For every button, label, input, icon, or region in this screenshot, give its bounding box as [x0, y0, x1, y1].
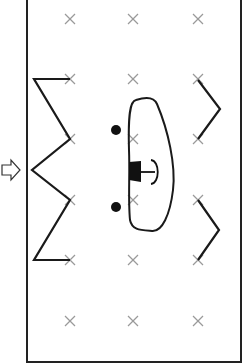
t-marker-icon: [129, 160, 158, 184]
grid-cross-icon: [128, 316, 138, 326]
chevron-lower: [198, 200, 219, 260]
maze-diagram: [0, 0, 251, 364]
grid-cross-icon: [193, 316, 203, 326]
grid-cross-icon: [128, 74, 138, 84]
grid-cross-icon: [65, 14, 75, 24]
grid-cross-icon: [193, 74, 203, 84]
dot-upper: [111, 125, 121, 135]
grid-cross-icon: [193, 14, 203, 24]
diagram-frame: [27, 0, 241, 362]
grid-cross-icon: [128, 14, 138, 24]
grid-cross-icon: [128, 255, 138, 265]
dot-lower: [111, 202, 121, 212]
grid-cross-icon: [65, 316, 75, 326]
zigzag-wall: [32, 79, 70, 260]
chevron-upper: [198, 80, 220, 139]
hollow-arrow-right-icon: [2, 160, 20, 180]
